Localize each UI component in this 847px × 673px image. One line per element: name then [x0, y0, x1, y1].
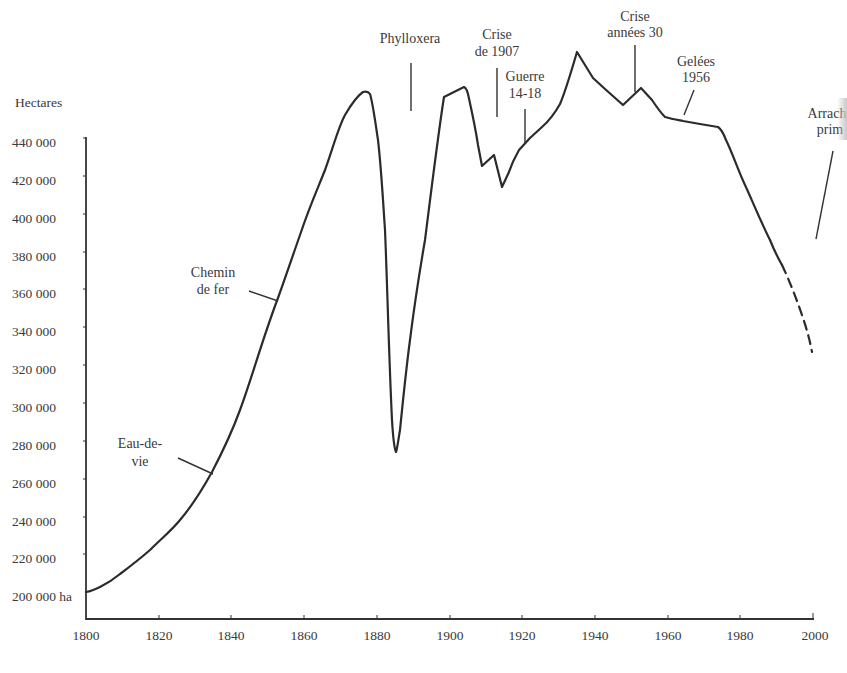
x-tick-1900: 1900 [437, 628, 464, 643]
y-tick-380000: 380 000 [12, 249, 56, 264]
y-axis-title: Hectares [15, 95, 62, 110]
y-tick-420000: 420 000 [12, 173, 56, 188]
annotation-guerre-14-18: Guerre 14-18 [506, 69, 545, 143]
svg-text:14-18: 14-18 [509, 86, 542, 101]
x-tick-1940: 1940 [582, 628, 609, 643]
svg-text:Crise: Crise [482, 27, 512, 42]
y-tick-360000: 360 000 [12, 286, 56, 301]
svg-text:Gelées: Gelées [677, 54, 715, 69]
svg-text:années 30: années 30 [607, 25, 663, 40]
y-axis-labels: 440 000 420 000 400 000 380 000 360 000 … [12, 135, 72, 604]
x-tick-1880: 1880 [364, 628, 391, 643]
page-edge-shadow [837, 98, 847, 140]
y-tick-260000: 260 000 [12, 476, 56, 491]
x-tick-1960: 1960 [655, 628, 682, 643]
annotation-eau-de-vie: Eau-de- vie [118, 436, 213, 474]
vineyard-area-line [86, 52, 782, 592]
annotation-chemin-de-fer: Chemin de fer [191, 265, 278, 301]
svg-text:vie: vie [131, 454, 148, 469]
x-tick-1920: 1920 [509, 628, 536, 643]
y-tick-440000: 440 000 [12, 135, 56, 150]
x-axis-labels: 1800 1820 1840 1860 1880 1900 1920 1940 … [73, 628, 829, 643]
y-tick-300000: 300 000 [12, 400, 56, 415]
svg-text:Eau-de-: Eau-de- [118, 436, 163, 451]
y-tick-200000: 200 000 ha [12, 589, 72, 604]
leader-line [178, 458, 213, 474]
y-tick-340000: 340 000 [12, 324, 56, 339]
svg-text:Guerre: Guerre [506, 69, 545, 84]
x-tick-1980: 1980 [727, 628, 754, 643]
y-tick-220000: 220 000 [12, 551, 56, 566]
x-tick-1820: 1820 [146, 628, 173, 643]
y-tick-400000: 400 000 [12, 211, 56, 226]
annotation-phylloxera: Phylloxera [380, 31, 441, 111]
y-tick-280000: 280 000 [12, 438, 56, 453]
annotation-crise-annees-30: Crise années 30 [607, 9, 663, 92]
svg-text:de fer: de fer [197, 282, 230, 297]
x-tick-1860: 1860 [291, 628, 318, 643]
x-tick-2000: 2000 [802, 628, 829, 643]
svg-text:Phylloxera: Phylloxera [380, 31, 441, 46]
x-tick-1800: 1800 [73, 628, 100, 643]
projection-dashed-line [782, 265, 812, 352]
annotation-gelees-1956: Gelées 1956 [677, 54, 715, 115]
svg-text:Crise: Crise [620, 9, 650, 24]
vineyard-area-chart: Hectares 440 000 420 000 400 000 380 000… [0, 0, 847, 673]
leader-line [249, 291, 278, 301]
x-tick-1840: 1840 [218, 628, 245, 643]
svg-text:Chemin: Chemin [191, 265, 235, 280]
leader-line [684, 90, 694, 115]
svg-text:de 1907: de 1907 [475, 44, 520, 59]
leader-line [816, 151, 833, 239]
svg-text:1956: 1956 [682, 70, 710, 85]
y-tick-240000: 240 000 [12, 514, 56, 529]
y-tick-320000: 320 000 [12, 362, 56, 377]
